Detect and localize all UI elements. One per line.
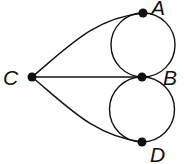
label-c: C xyxy=(3,66,19,89)
label-a: A xyxy=(149,0,165,19)
node-d xyxy=(138,138,147,147)
graph-svg: A B C D xyxy=(0,0,184,164)
edge-c-d xyxy=(32,77,142,142)
label-d: D xyxy=(150,143,165,164)
node-b xyxy=(138,73,147,82)
node-a xyxy=(139,9,148,18)
label-b: B xyxy=(163,66,177,89)
edge-c-a xyxy=(32,13,143,77)
graph-diagram: A B C D xyxy=(0,0,184,164)
node-c xyxy=(28,73,37,82)
